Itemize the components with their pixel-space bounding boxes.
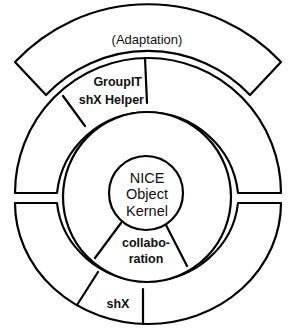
shx-label: shX [107,297,131,311]
shx-helper-label: shX Helper [79,93,144,107]
kernel-label-line1: NICE [130,170,165,186]
kernel-label-line3: Kernel [126,203,168,219]
collaboration-label-line2: ration [129,252,164,266]
collaboration-label-line1: collabo- [122,236,170,250]
layered-architecture-diagram: (Adaptation) GroupIT shX Helper NICE Obj… [0,0,292,335]
kernel-label-line2: Object [126,186,168,202]
adaptation-label: (Adaptation) [112,32,183,47]
groupit-label: GroupIT [93,75,142,89]
